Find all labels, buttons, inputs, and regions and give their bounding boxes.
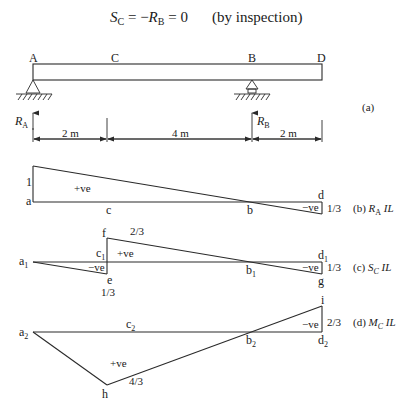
mc-label-a2: a2 [19,325,28,341]
ra-pos-label: +ve [74,182,91,194]
pin-support-icon [16,80,52,100]
mc-label-c2: c2 [126,317,135,333]
header-equation: SC = −RB = 0 (by inspection) [110,9,302,27]
sc-value-right: 1/3 [327,261,342,273]
point-b-label: B [248,51,256,65]
mc-label-b2: b2 [246,333,256,349]
caption-a: (a) [362,101,375,114]
dim-bd: 2 m [280,127,297,139]
sc-pos-label: +ve [117,247,134,259]
point-c-label: C [111,51,119,65]
dim-cb: 4 m [172,127,189,139]
ra-label-c: c [106,203,111,217]
eq-s: SC = −RB = 0 [110,9,188,27]
eq-note: (by inspection) [212,9,302,26]
mc-label-d2: d2 [318,333,328,349]
sc-value-f: 2/3 [130,225,145,237]
sc-label-b1: b1 [246,263,256,279]
sc-value-e: 1/3 [101,286,116,298]
reaction-b-label: RB [256,114,270,130]
sc-label-e: e [107,273,112,287]
sc-neg-label-right: −ve [302,261,319,273]
mc-neg-label: −ve [302,318,319,330]
ra-value-1: 1 [26,175,32,189]
beam [33,64,322,80]
reaction-a-label: RA [14,114,28,130]
ra-label-d: d [318,188,324,202]
ra-label-b: b [247,203,253,217]
ra-label-a: a [26,194,32,208]
sc-influence-line: a1 c1 f 2/3 e 1/3 +ve −ve −ve b1 d1 g 1/… [19,225,391,298]
point-a-label: A [29,51,38,65]
ra-neg-label: −ve [302,201,319,213]
roller-support-icon [234,80,270,100]
sc-label-g: g [318,274,324,288]
mc-value-i: 2/3 [327,316,342,328]
mc-pos-label: +ve [110,357,127,369]
beam-diagram: A C B D RA RB 2 m [14,51,375,142]
mc-caption: (d) MC IL [353,316,396,331]
sc-label-f: f [102,226,106,240]
sc-label-a1: a1 [19,254,28,270]
dim-ac: 2 m [62,127,79,139]
sc-neg-label-left: −ve [88,261,105,273]
sc-caption: (c) SC IL [353,261,391,276]
ra-influence-line: 1 a c b d +ve −ve 1/3 (b) RA IL [26,166,394,217]
mc-value-h: 4/3 [129,375,144,387]
point-d-label: D [317,51,326,65]
mc-label-h: h [102,387,108,401]
influence-line-diagram: SC = −RB = 0 (by inspection) A C B D RA … [0,0,408,407]
sc-label-c1: c1 [96,246,105,262]
mc-label-i: i [321,293,325,307]
ra-value-right: 1/3 [327,202,342,214]
ra-caption: (b) RA IL [353,202,394,217]
mc-influence-line: a2 c2 b2 d2 i 2/3 −ve +ve h 4/3 (d) MC I… [19,293,396,401]
